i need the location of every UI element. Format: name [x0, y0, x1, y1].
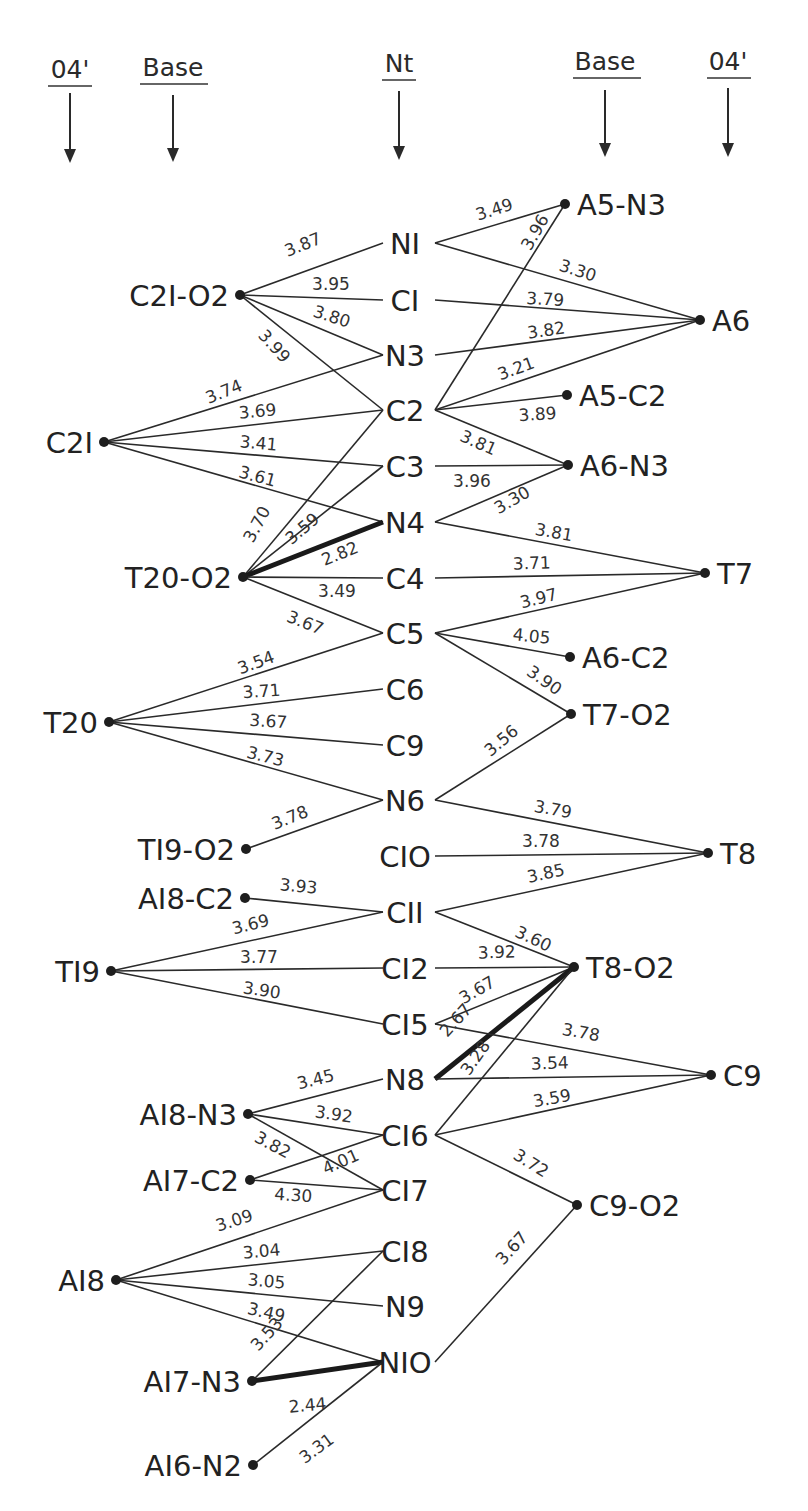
left-partner-C21: C2I [46, 426, 109, 460]
partner-label: T8-O2 [585, 951, 675, 985]
partner-label: AI7-C2 [143, 1164, 239, 1198]
right-partner-C9-O2: C9-O2 [572, 1189, 680, 1223]
distance-label: 4.05 [512, 624, 552, 648]
partner-label: AI8-N3 [140, 1098, 237, 1132]
nt-atom-label: CIO [379, 840, 431, 874]
header-base-right: Base [573, 47, 641, 157]
distance-label: 3.56 [480, 721, 522, 761]
contact-line [104, 355, 383, 442]
distance-label: 4.01 [319, 1145, 362, 1179]
atom-dot [99, 437, 109, 447]
distance-label: 3.87 [281, 228, 324, 261]
distance-label: 3.78 [522, 831, 560, 851]
right-partner-A6-N3: A6-N3 [563, 449, 669, 483]
right-partner-T8: T8 [703, 837, 756, 871]
nt-atom-label: CI6 [381, 1119, 428, 1153]
contact-line [435, 243, 700, 320]
header-label: 04' [51, 55, 90, 84]
right-partner-A5-N3: A5-N3 [560, 188, 666, 222]
distance-label: 3.30 [491, 482, 534, 518]
contact-line [435, 853, 708, 912]
nt-atom-label: C9 [386, 729, 425, 763]
distance-labels: 3.873.953.803.993.743.693.413.613.703.59… [202, 194, 601, 1467]
contact-diagram: 04'BaseNtBase04' 3.873.953.803.993.743.6… [0, 0, 808, 1511]
nt-atom-label: N3 [385, 339, 425, 373]
partner-label: A6 [712, 304, 750, 338]
atom-dot [111, 1275, 121, 1285]
left-partner-A16-N2: AI6-N2 [145, 1449, 258, 1483]
left-partner-T19: TI9 [54, 955, 116, 989]
atom-dot [245, 1175, 255, 1185]
atom-dot [235, 290, 245, 300]
header-o4-left: 04' [48, 55, 92, 163]
distance-label: 3.67 [284, 606, 327, 639]
nt-atom-label: NIO [378, 1346, 431, 1380]
left-partner-T19-O2: TI9-O2 [137, 833, 251, 867]
partner-label: C9 [723, 1059, 762, 1093]
atom-dot [706, 1070, 716, 1080]
atom-dot [241, 844, 251, 854]
left-partner-A18-N3: AI8-N3 [140, 1098, 253, 1132]
nt-atom-label: CI7 [381, 1174, 428, 1208]
distance-label: 3.79 [533, 796, 574, 822]
contact-line [240, 295, 383, 300]
atom-dot [247, 1376, 257, 1386]
down-arrow-icon [167, 95, 179, 162]
right-partner-A6: A6 [695, 304, 750, 338]
distance-label: 3.41 [239, 431, 278, 454]
contact-line [435, 853, 708, 856]
nt-atom-label: CI8 [381, 1235, 428, 1269]
left-partner-A17-C2: AI7-C2 [143, 1164, 255, 1198]
distance-label: 3.28 [456, 1036, 494, 1078]
header-label: 04' [709, 47, 748, 76]
nt-atom-label: N6 [385, 784, 425, 818]
distance-label: 3.31 [295, 1429, 337, 1467]
contact-line [435, 573, 705, 578]
down-arrow-icon [64, 93, 76, 163]
partner-label: AI7-N3 [144, 1365, 241, 1399]
nt-atom-label: C6 [386, 673, 425, 707]
distance-label: 3.93 [279, 874, 318, 897]
atom-dot [569, 962, 579, 972]
distance-label: 3.78 [561, 1019, 602, 1045]
nt-atom-label: C3 [386, 450, 425, 484]
right-partner-T7: T7 [700, 557, 753, 591]
left-partner-A17-N3: AI7-N3 [144, 1365, 257, 1399]
nt-atom-label: NI [390, 227, 420, 261]
nt-atom-label: CI5 [381, 1008, 428, 1042]
atom-dot [243, 1109, 253, 1119]
down-arrow-icon [393, 91, 405, 160]
partner-label: AI6-N2 [145, 1449, 242, 1483]
partner-label: T7 [716, 557, 753, 591]
distance-label: 3.81 [457, 426, 500, 460]
down-arrow-icon [722, 88, 734, 157]
distance-label: 3.67 [249, 710, 288, 733]
atom-dot [560, 199, 570, 209]
nt-atom-label: C2 [386, 394, 425, 428]
atom-dot [572, 1200, 582, 1210]
distance-label: 3.97 [518, 584, 560, 613]
contact-line [435, 1135, 577, 1205]
distance-label: 3.69 [238, 399, 277, 422]
partner-label: T20-O2 [124, 561, 232, 595]
contact-line [435, 967, 574, 968]
partner-label: AI8 [58, 1264, 105, 1298]
nt-atom-label: N4 [385, 506, 425, 540]
left-partner-T20: T20 [42, 706, 114, 740]
distance-label: 3.90 [523, 661, 565, 699]
contact-line [111, 968, 383, 971]
left-partner-A18: AI8 [58, 1264, 121, 1298]
distance-label: 3.85 [525, 859, 566, 886]
nt-atom-label: CI [391, 284, 420, 318]
contact-line [435, 320, 700, 355]
distance-label: 3.45 [295, 1065, 337, 1094]
atom-dot [703, 848, 713, 858]
partner-label: A6-C2 [582, 641, 669, 675]
header-nt: Nt [382, 49, 416, 160]
right-partner-T7-O2: T7-O2 [566, 698, 672, 732]
header-base-left: Base [140, 53, 208, 162]
partner-label: C9-O2 [589, 1189, 680, 1223]
atom-dot [695, 315, 705, 325]
distance-label: 3.89 [518, 403, 557, 426]
down-arrow-icon [599, 90, 611, 157]
